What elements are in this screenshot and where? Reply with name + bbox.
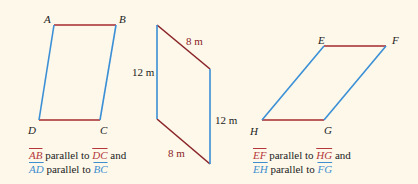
vertex-e: E bbox=[318, 33, 325, 47]
segment-label-eh: EH bbox=[253, 163, 268, 175]
vertex-d: D bbox=[28, 123, 36, 137]
label-right-12m: 12 m bbox=[215, 113, 237, 127]
segment-ad bbox=[39, 25, 54, 120]
caption-1-line-1: AB parallel to DC and bbox=[29, 148, 126, 162]
vertex-f: F bbox=[392, 33, 399, 47]
segment-label-hg: HG bbox=[316, 149, 332, 161]
segment-label-ef: EF bbox=[253, 149, 266, 161]
caption-text: and bbox=[108, 149, 127, 161]
segment-bc bbox=[100, 25, 116, 120]
caption-1-line-2: AD parallel to BC bbox=[29, 162, 108, 176]
vertex-h: H bbox=[250, 124, 258, 138]
segment-eh bbox=[262, 46, 324, 120]
segment-label-bc: BC bbox=[93, 163, 107, 175]
caption-text: parallel to bbox=[44, 163, 94, 175]
vertex-g: G bbox=[324, 123, 332, 137]
vertex-c: C bbox=[100, 123, 107, 137]
vertex-a: A bbox=[44, 12, 51, 26]
segment-label-fg: FG bbox=[317, 163, 332, 175]
caption-3-line-1: EF parallel to HG and bbox=[253, 148, 351, 162]
caption-text: and bbox=[332, 149, 351, 161]
caption-text: parallel to bbox=[266, 149, 316, 161]
label-left-12m: 12 m bbox=[132, 65, 154, 79]
label-bottom-8m: 8 m bbox=[168, 146, 185, 160]
caption-text: parallel to bbox=[268, 163, 318, 175]
segment-fg bbox=[324, 46, 386, 120]
caption-3-line-2: EH parallel to FG bbox=[253, 162, 332, 176]
label-top-8m: 8 m bbox=[186, 34, 203, 48]
caption-text: parallel to bbox=[42, 149, 92, 161]
segment-label-ad: AD bbox=[29, 163, 44, 175]
vertex-b: B bbox=[119, 12, 126, 26]
segment-label-ab: AB bbox=[29, 149, 42, 161]
segment-label-dc: DC bbox=[92, 149, 107, 161]
